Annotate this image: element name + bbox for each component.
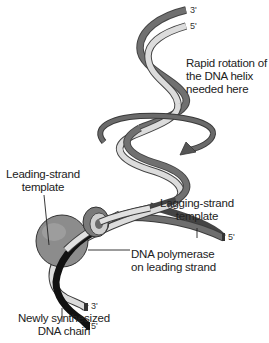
strand-end-3prime-leading: 3'	[91, 301, 98, 311]
label-line: template	[160, 210, 234, 223]
label-line: needed here	[186, 83, 267, 96]
label-line: on leading strand	[131, 261, 216, 274]
label-line: template	[6, 181, 80, 194]
strand-end-5prime-top: 5'	[190, 21, 197, 31]
strand-end-5prime-lagging: 5'	[228, 232, 235, 242]
label-line: Newly synthesized	[18, 312, 110, 325]
strand-end-3prime-top: 3'	[190, 5, 197, 15]
label-line: Rapid rotation of	[186, 57, 267, 70]
label-line: DNA chain	[18, 325, 110, 338]
helix-middle	[120, 128, 187, 206]
label-line: Lagging-strand	[160, 197, 234, 210]
label-line: the DNA helix	[186, 70, 267, 83]
label-leading-strand-template: Leading-strand template	[6, 168, 80, 194]
label-rapid-rotation: Rapid rotation of the DNA helix needed h…	[186, 57, 267, 96]
label-line: Leading-strand	[6, 168, 80, 181]
label-new-dna-chain: Newly synthesized DNA chain	[18, 312, 110, 338]
label-dna-polymerase: DNA polymerase on leading strand	[131, 248, 216, 274]
label-line: DNA polymerase	[131, 248, 216, 261]
label-lagging-strand-template: Lagging-strand template	[160, 197, 234, 223]
